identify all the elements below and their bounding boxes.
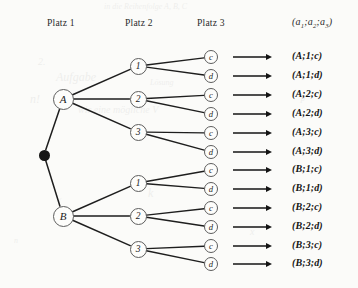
outcome-12: (B;3;d) [292,257,323,268]
node-A-3: 3 [130,124,147,141]
column-header-platz-2: Platz 2 [125,17,153,28]
node-B-2: 2 [130,208,147,225]
leaf-A-3-c: c [204,126,218,140]
leaf-B-1-d: d [204,182,218,196]
outcome-2: (A;1;d) [292,69,323,80]
leaf-B-1-c: c [204,163,218,177]
outcome-tuple-header: (a1;a2;a3) [292,16,332,29]
outcome-9: (B;2;c) [292,201,322,212]
column-header-platz-3: Platz 3 [197,17,225,28]
node-B: B [53,206,74,227]
node-B-1: 1 [130,175,147,192]
leaf-A-2-c: c [204,88,218,102]
leaf-A-1-d: d [204,69,218,83]
outcome-4: (A;2;d) [292,107,323,118]
outcome-10: (B;2;d) [292,220,323,231]
outcome-8: (B;1;d) [292,182,323,193]
leaf-B-3-d: d [204,257,218,271]
outcome-7: (B;1;c) [292,163,322,174]
column-header-platz-1: Platz 1 [47,17,75,28]
leaf-B-2-d: d [204,220,218,234]
node-A-2: 2 [130,91,147,108]
leaf-B-2-c: c [204,201,218,215]
outcome-5: (A;3;c) [292,126,322,137]
leaf-A-2-d: d [204,107,218,121]
leaf-A-1-c: c [204,50,218,64]
root-node [39,150,50,161]
outcome-1: (A;1;c) [292,50,322,61]
leaf-A-3-d: d [204,145,218,159]
tree-diagram: Platz 1Platz 2Platz 3(a1;a2;a3)AB123123c… [0,0,358,288]
outcome-3: (A;2;c) [292,88,322,99]
node-A: A [53,89,74,110]
outcome-6: (A;3;d) [292,145,323,156]
node-B-3: 3 [130,241,147,258]
outcome-11: (B;3;c) [292,239,322,250]
node-A-1: 1 [130,58,147,75]
leaf-B-3-c: c [204,239,218,253]
